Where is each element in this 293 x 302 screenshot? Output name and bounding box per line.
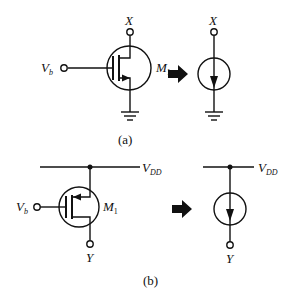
equivalence-arrow-icon-b	[172, 200, 192, 218]
y-terminal-icon	[87, 241, 93, 247]
vb-label: Vb	[41, 60, 53, 77]
gate-terminal-icon	[61, 65, 67, 71]
x-terminal-icon	[127, 29, 133, 35]
m1-label-b: M1	[102, 199, 118, 216]
current-source-b	[203, 167, 254, 248]
ground-icon	[121, 112, 139, 120]
x-label: X	[124, 13, 134, 28]
source-arrow-icon	[122, 75, 130, 82]
vdd-label-equiv: VDD	[258, 160, 278, 177]
pmos-transistor-m1	[40, 167, 99, 240]
gate-terminal-icon-b	[34, 204, 40, 210]
diagram-canvas: X Vb M1 X (a) VDD Vb M1 Y VDD Y (b)	[0, 0, 293, 302]
source-arrow-icon-b	[73, 194, 81, 201]
nmos-transistor-m1	[68, 36, 151, 112]
caption-b: (b)	[143, 273, 158, 288]
current-source-a	[198, 29, 230, 120]
caption-a: (a)	[118, 132, 132, 147]
vdd-label: VDD	[142, 160, 162, 177]
vb-label-b: Vb	[16, 199, 28, 216]
y-label-equiv: Y	[226, 251, 235, 266]
circuit-diagram: X Vb M1 X (a) VDD Vb M1 Y VDD Y (b)	[0, 0, 293, 302]
m1-label: M1	[155, 60, 171, 77]
x-label-equiv: X	[208, 13, 218, 28]
y-label: Y	[86, 250, 95, 265]
equivalence-arrow-icon-a	[168, 65, 188, 83]
junction-dot-icon-b	[228, 165, 233, 170]
